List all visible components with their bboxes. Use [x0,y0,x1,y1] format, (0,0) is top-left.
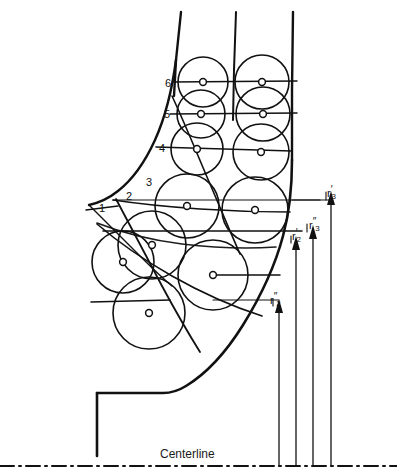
center-marker [194,146,201,153]
radius-label-r-prime-3: r′3 [327,188,337,199]
station-line-lower [91,300,170,302]
dimension-arrow-r-prime-2 [292,236,300,466]
radius-label-r-prime-2: r′2 [292,231,302,242]
technical-drawing [0,0,397,476]
radius-subscript: 2 [297,235,301,244]
station-label-2: 2 [126,190,132,202]
figure-canvas: 1 2 3 4 5 6 r′3 r″3 r′2 r″2 Centerline [0,0,397,476]
center-marker [210,272,217,279]
center-marker [258,149,265,156]
radius-label-r-double-prime-3: r″3 [309,220,321,231]
passage-line-middle [233,12,236,120]
station-line-4 [156,147,292,151]
center-marker [149,242,156,249]
station-label-6: 6 [165,77,171,89]
station-label-1: 1 [99,202,105,214]
radius-subscript: 3 [332,192,336,201]
centerline-label: Centerline [160,447,215,461]
center-marker [260,111,267,118]
center-marker [252,207,259,214]
station-line-3-curve [113,200,290,212]
center-marker [120,259,127,266]
center-marker [259,79,266,86]
station-label-5: 5 [164,108,170,120]
center-marker [200,79,207,86]
camber-line-mid [116,199,200,352]
camber-line-nose [89,205,172,286]
radius-label-r-double-prime-2: r″2 [270,295,282,306]
station-line-6 [172,81,297,82]
radius-subscript: 3 [315,224,319,233]
dimension-arrow-r-double-prime-2 [213,299,283,466]
passage-line-right [292,12,293,160]
center-marker [198,111,205,118]
dimension-arrow-r-double-prime-3 [309,225,317,466]
station-label-4: 4 [159,142,165,154]
center-marker [184,203,191,210]
radius-subscript: 2 [276,299,280,308]
station-line-5 [170,113,297,114]
center-marker [146,310,153,317]
station-label-3: 3 [146,176,152,188]
